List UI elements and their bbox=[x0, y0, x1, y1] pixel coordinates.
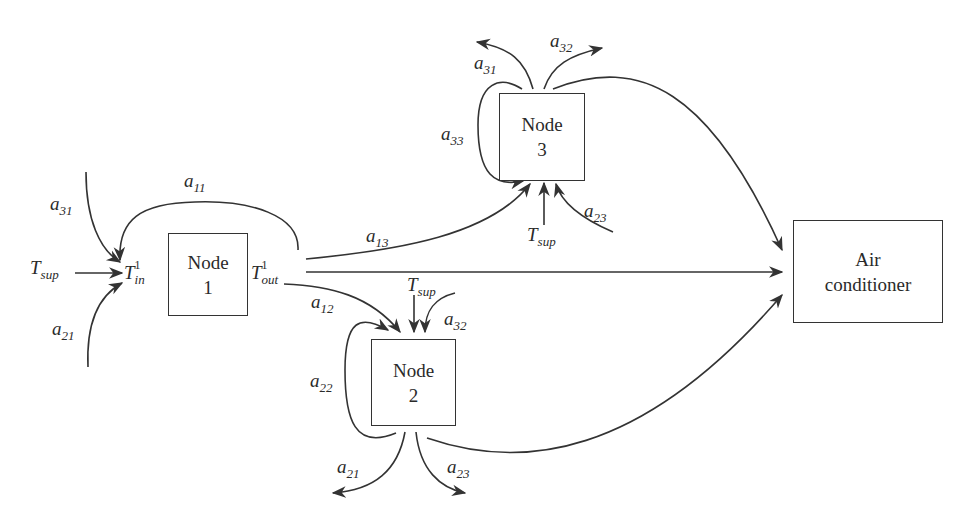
node-2-number: 2 bbox=[409, 383, 419, 408]
node-2: Node 2 bbox=[371, 339, 456, 426]
label-t-out: T1out bbox=[251, 262, 278, 288]
label-tsup-2: Tsup bbox=[407, 274, 436, 300]
label-tsup-1: Tsup bbox=[30, 257, 59, 283]
label-a32-out: a32 bbox=[550, 30, 573, 56]
label-tsup-3: Tsup bbox=[527, 224, 556, 250]
label-a31-out: a31 bbox=[474, 52, 497, 78]
label-t-in: T1in bbox=[124, 262, 145, 288]
label-a32-in: a32 bbox=[444, 308, 467, 334]
node-1-title: Node bbox=[187, 250, 228, 275]
label-a31-in: a31 bbox=[50, 193, 73, 219]
node-3-title: Node bbox=[521, 112, 562, 137]
label-a22: a22 bbox=[310, 370, 333, 396]
label-a13: a13 bbox=[366, 225, 389, 251]
label-a33: a33 bbox=[441, 123, 464, 149]
a21-to-tin-arrow bbox=[88, 283, 122, 367]
label-a12: a12 bbox=[311, 291, 334, 317]
label-a23-in: a23 bbox=[584, 200, 607, 226]
a31-to-tin-arrow bbox=[86, 172, 120, 262]
air-conditioner-line1: Air bbox=[855, 247, 880, 272]
node-2-title: Node bbox=[393, 358, 434, 383]
a13-to-node3-arrow bbox=[306, 184, 530, 259]
node-3-number: 3 bbox=[537, 137, 547, 162]
node-1: Node 1 bbox=[168, 233, 248, 316]
label-a23-out: a23 bbox=[447, 456, 470, 482]
label-a21-in: a21 bbox=[52, 318, 75, 344]
label-a21-out: a21 bbox=[337, 456, 360, 482]
node2-to-ac-arrow bbox=[427, 295, 782, 453]
node-1-number: 1 bbox=[203, 275, 213, 300]
air-conditioner: Air conditioner bbox=[793, 220, 943, 323]
label-a11: a11 bbox=[184, 170, 206, 196]
a12-to-node2-arrow bbox=[284, 284, 400, 332]
air-conditioner-line2: conditioner bbox=[825, 272, 912, 297]
node-3: Node 3 bbox=[499, 93, 585, 181]
